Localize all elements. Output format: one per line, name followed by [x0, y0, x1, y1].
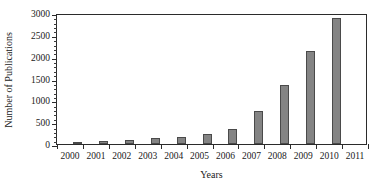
bar	[151, 138, 160, 144]
y-axis-minor-tick	[54, 94, 57, 95]
y-axis-minor-tick	[54, 120, 57, 121]
y-axis-minor-tick	[54, 54, 57, 55]
y-axis-minor-tick	[54, 41, 57, 42]
y-axis-minor-tick	[54, 129, 57, 130]
y-axis-minor-tick	[54, 63, 57, 64]
y-axis-tick	[52, 59, 57, 60]
y-axis-tick-label: 3000	[31, 10, 50, 20]
y-axis-tick-label: 1500	[31, 76, 50, 86]
x-axis-title: Years	[56, 170, 367, 180]
bar	[177, 137, 186, 144]
x-axis-tick	[83, 144, 84, 149]
y-axis-tick	[52, 15, 57, 16]
x-axis-tick	[213, 144, 214, 149]
x-axis-tick-label: 2006	[216, 151, 235, 161]
bar	[332, 18, 341, 144]
x-axis-tick	[109, 144, 110, 149]
x-axis-tick-label: 2010	[320, 151, 339, 161]
x-axis-tick	[238, 144, 239, 149]
publications-bar-chart: Number of Publications 05001000150020002…	[0, 0, 387, 188]
x-axis-tick-label: 2004	[164, 151, 183, 161]
bar	[280, 85, 289, 144]
x-axis-tick	[57, 144, 58, 149]
y-axis-tick	[52, 102, 57, 103]
bar	[228, 129, 237, 144]
y-axis-minor-tick	[54, 85, 57, 86]
bar	[99, 141, 108, 144]
y-axis-tick-label: 2500	[31, 32, 50, 42]
x-axis-tick-label: 2000	[60, 151, 79, 161]
y-axis-minor-tick	[54, 19, 57, 20]
bar	[306, 51, 315, 144]
y-axis-minor-tick	[54, 142, 57, 143]
y-axis-minor-tick	[54, 133, 57, 134]
x-axis-tick	[368, 144, 369, 149]
y-axis-minor-tick	[54, 111, 57, 112]
y-axis-tick	[52, 81, 57, 82]
x-axis-tick-label: 2009	[294, 151, 313, 161]
y-axis-minor-tick	[54, 72, 57, 73]
y-axis-title-text: Number of Publications	[4, 32, 14, 128]
bar	[73, 142, 82, 144]
y-axis-minor-tick	[54, 76, 57, 77]
y-axis-minor-tick	[54, 107, 57, 108]
x-axis-tick	[290, 144, 291, 149]
x-axis-tick-label: 2007	[242, 151, 261, 161]
bar	[125, 140, 134, 144]
y-axis-minor-tick	[54, 67, 57, 68]
y-axis-minor-tick	[54, 89, 57, 90]
y-axis-minor-tick	[54, 115, 57, 116]
y-axis-title: Number of Publications	[2, 14, 16, 145]
x-axis-tick-label: 2001	[86, 151, 105, 161]
x-axis-tick	[342, 144, 343, 149]
plot-area: 0500100015002000250030002000200120022003…	[56, 14, 367, 145]
x-axis-tick	[316, 144, 317, 149]
x-axis-tick-label: 2002	[112, 151, 131, 161]
bar	[203, 134, 212, 144]
y-axis-minor-tick	[54, 28, 57, 29]
bar	[254, 111, 263, 144]
y-axis-tick-label: 0	[45, 141, 50, 151]
x-axis-tick	[187, 144, 188, 149]
y-axis-tick	[52, 124, 57, 125]
y-axis-tick-label: 500	[36, 119, 50, 129]
x-axis-tick	[264, 144, 265, 149]
x-axis-tick-label: 2003	[138, 151, 157, 161]
x-axis-tick	[161, 144, 162, 149]
y-axis-minor-tick	[54, 137, 57, 138]
y-axis-minor-tick	[54, 98, 57, 99]
y-axis-minor-tick	[54, 32, 57, 33]
y-axis-minor-tick	[54, 46, 57, 47]
y-axis-tick-label: 1000	[31, 98, 50, 108]
x-axis-tick-label: 2008	[268, 151, 287, 161]
y-axis-minor-tick	[54, 50, 57, 51]
y-axis-tick	[52, 37, 57, 38]
y-axis-minor-tick	[54, 24, 57, 25]
x-axis-tick-label: 2011	[346, 151, 365, 161]
x-axis-tick	[135, 144, 136, 149]
y-axis-tick-label: 2000	[31, 54, 50, 64]
x-axis-tick-label: 2005	[190, 151, 209, 161]
